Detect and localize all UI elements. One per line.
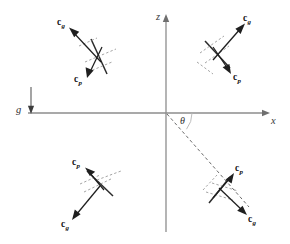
x-axis-label: x [271, 116, 276, 127]
physics-diagram: z x g θ cg cp cg cp cp cg cp cg [0, 0, 290, 244]
label-cp-bottom-right: cp [235, 164, 243, 176]
vector-cp-arrowhead-bottom-left [85, 168, 95, 177]
plate-guide-a-top-right [200, 36, 224, 53]
label-cg-sub-top-right: g [247, 18, 251, 26]
label-cp-sub-top-left: p [78, 79, 82, 87]
label-cg-top-left: cg [57, 18, 65, 30]
theta-arc [187, 113, 193, 129]
object-bottom-left [72, 168, 121, 221]
label-cg-sub-bottom-right: g [252, 219, 256, 227]
diagram-canvas [0, 0, 290, 244]
vector-cg-shaft-top-right [213, 28, 241, 60]
z-axis-label: z [156, 12, 160, 23]
plate-guide-b-bottom-right [206, 192, 233, 200]
plate-guide-a-bottom-left [97, 171, 121, 180]
plate-guide-c-bottom-left [80, 175, 100, 184]
label-cp-sub-top-right: p [237, 77, 241, 85]
label-cg-top-right: cg [243, 14, 251, 26]
z-axis-arrowhead [163, 14, 169, 22]
vector-cg-shaft-bottom-left [76, 186, 100, 215]
theta-label: θ [180, 116, 185, 126]
vector-cp-arrowhead-top-right [223, 64, 231, 74]
gravity-label: g [16, 105, 21, 116]
plate-guide-c-bottom-right [203, 175, 217, 190]
gravity-arrow-group [28, 87, 34, 114]
vector-cp-shaft-bottom-right [213, 178, 230, 198]
label-cp-top-right: cp [233, 73, 241, 85]
vector-cg-arrowhead-top-left [69, 28, 79, 38]
label-cg-bottom-right: cg [248, 215, 256, 227]
object-top-left [69, 28, 116, 79]
label-cg-bottom-left: cg [61, 220, 69, 232]
vector-cp-arrowhead-top-left [86, 67, 94, 78]
axes-group [28, 14, 270, 232]
vector-cg-shaft-bottom-right [219, 188, 243, 211]
object-top-right [197, 24, 245, 75]
label-cp-top-left: cp [74, 75, 82, 87]
label-cg-sub-bottom-left: g [65, 224, 69, 232]
label-cp-sub-bottom-left: p [76, 162, 80, 170]
label-cp-bottom-left: cp [72, 158, 80, 170]
x-axis-arrowhead [262, 110, 270, 116]
label-cg-sub-top-left: g [61, 22, 65, 30]
plate-guide-c-top-right [197, 62, 213, 74]
label-cp-sub-bottom-right: p [239, 168, 243, 176]
